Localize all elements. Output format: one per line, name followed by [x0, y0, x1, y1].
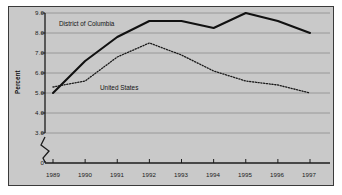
chart-figure: Percent 9.0 8.0 7.0 6.0 5.0 4.0 3.0 0 19…: [0, 0, 342, 195]
y-axis-break-icon: [41, 137, 49, 162]
series-line-united-states: [53, 43, 310, 93]
axis-ticks-group: [41, 13, 310, 163]
chart-canvas: [0, 0, 342, 195]
axes-group: [41, 13, 330, 163]
gridlines-group: [44, 13, 330, 133]
